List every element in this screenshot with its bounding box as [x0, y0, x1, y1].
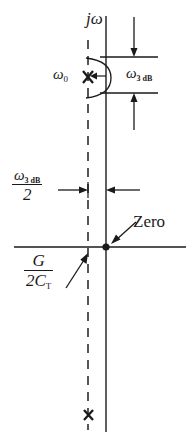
half-bw-omega-symbol: ω — [14, 167, 25, 183]
half-bw-arrow-right-head — [79, 187, 88, 194]
jomega-axis-label: jω — [86, 10, 103, 27]
sigma-offset-leader — [66, 260, 84, 288]
zero-callout-label: Zero — [133, 213, 165, 230]
half-bw-arrow-left-head — [106, 187, 115, 194]
half-bandwidth-denominator: 2 — [12, 184, 42, 203]
omega-zero-symbol: ω — [53, 66, 64, 82]
omega-zero-subscript: 0 — [64, 74, 69, 84]
half-bandwidth-numerator: ω3 dB — [12, 168, 42, 184]
zero-callout-arrowhead — [111, 235, 121, 245]
omega-3db-symbol: ω — [126, 65, 137, 81]
half-bandwidth-fraction: ω3 dB 2 — [12, 168, 42, 203]
omega-3db-label: ω3 dB — [126, 66, 152, 81]
sigma-offset-den-subscript: T — [46, 281, 52, 291]
sigma-offset-fraction: G 2CT — [24, 252, 53, 289]
pole-zero-figure: jω ω0 ω3 dB Zero ω3 dB 2 G 2CT — [0, 0, 194, 446]
half-bw-omega-subscript: 3 dB — [25, 176, 41, 185]
sigma-offset-denominator: 2CT — [24, 270, 53, 289]
omega-zero-label: ω0 — [53, 67, 68, 82]
sigma-offset-numerator: G — [24, 252, 53, 270]
bandwidth-arrow-up-head — [131, 93, 138, 102]
omega-3db-subscript: 3 dB — [137, 74, 153, 83]
sigma-offset-arrowhead — [80, 253, 88, 264]
sigma-offset-den-lead: 2C — [26, 271, 46, 290]
bandwidth-arrow-down-head — [131, 48, 138, 57]
zero-marker — [102, 243, 109, 250]
